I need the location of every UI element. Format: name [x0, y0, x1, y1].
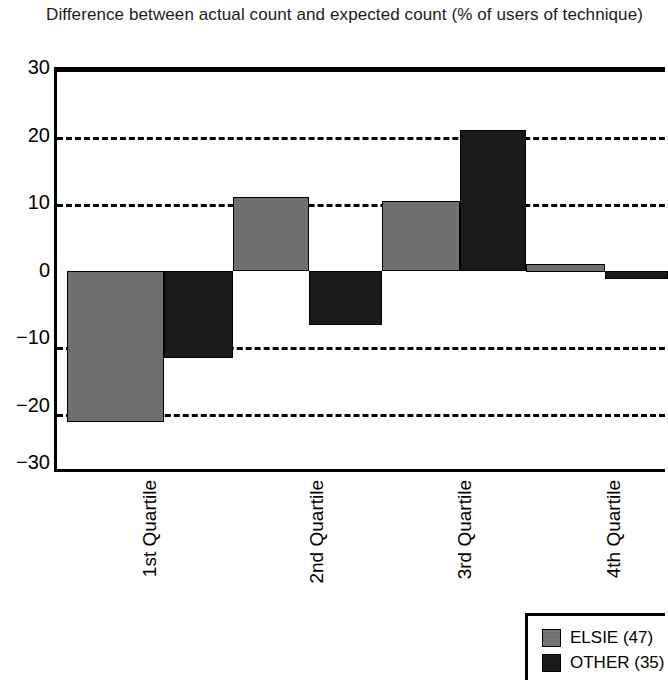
gridline-20	[57, 137, 665, 140]
x-tick-label-4th-quartile: 4th Quartile	[604, 480, 623, 578]
y-axis-tick-labels: 30 20 10 0 −10 −20 −30	[0, 0, 50, 680]
plot-inner	[57, 70, 665, 470]
bar-1st-quartile-other	[164, 271, 233, 358]
bar-2nd-quartile-elsie	[233, 197, 309, 271]
y-tick-label-20: 20	[4, 125, 50, 145]
legend-swatch-other-icon	[542, 654, 561, 672]
y-tick-label-neg20: −20	[4, 395, 50, 415]
bar-3rd-quartile-other	[460, 130, 526, 271]
y-tick-label-10: 10	[4, 192, 50, 212]
x-axis-line	[54, 469, 665, 472]
bar-2nd-quartile-other	[309, 271, 382, 325]
bar-1st-quartile-elsie	[67, 271, 164, 422]
y-tick-label-neg10: −10	[4, 327, 50, 347]
legend-item-elsie: ELSIE (47)	[542, 625, 665, 650]
y-tick-label-0: 0	[4, 260, 50, 280]
bar-3rd-quartile-elsie	[382, 201, 460, 271]
legend-swatch-elsie-icon	[542, 629, 561, 647]
zero-baseline	[57, 70, 665, 72]
y-tick-label-neg30: −30	[4, 452, 50, 472]
x-tick-label-2nd-quartile: 2nd Quartile	[307, 480, 326, 584]
gridline-10	[57, 204, 665, 207]
y-tick-label-30: 30	[4, 57, 50, 77]
bar-4th-quartile-other	[605, 271, 668, 279]
legend-item-other: OTHER (35)	[542, 650, 665, 675]
plot-area	[54, 67, 665, 470]
chart-title: Difference between actual count and expe…	[46, 4, 666, 26]
legend-label-elsie: ELSIE (47)	[570, 629, 653, 646]
x-tick-label-1st-quartile: 1st Quartile	[140, 480, 159, 577]
legend-label-other: OTHER (35)	[570, 654, 664, 671]
bar-4th-quartile-elsie	[526, 264, 605, 272]
x-tick-label-3rd-quartile: 3rd Quartile	[455, 480, 474, 579]
chart-legend: ELSIE (47) OTHER (35)	[525, 613, 665, 680]
